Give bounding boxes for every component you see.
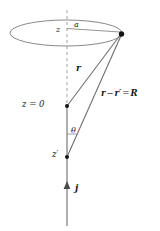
figure-container: a z r r−r′=R z = 0 θ z′ j (0, 0, 160, 231)
source-point-marker (65, 155, 69, 159)
current-density-label: j (75, 184, 78, 193)
vector-difference-result: R (130, 88, 137, 98)
loop-radius-label: a (74, 21, 79, 29)
polar-angle-label: θ (71, 127, 76, 135)
current-arrowhead-icon (64, 181, 71, 189)
loop-radius-line (67, 29, 120, 33)
field-point-marker (119, 31, 124, 36)
current-loop-ellipse (10, 20, 122, 46)
source-height-label: z′ (52, 150, 58, 159)
vector-difference-minus: − (105, 88, 114, 98)
loop-height-label: z (56, 26, 60, 34)
origin-label: z = 0 (22, 100, 44, 109)
loop-geometry-diagram (0, 0, 160, 231)
vector-r-label: r (76, 64, 81, 73)
origin-point-marker (65, 104, 69, 108)
vector-difference-label: r−r′=R (101, 89, 138, 98)
